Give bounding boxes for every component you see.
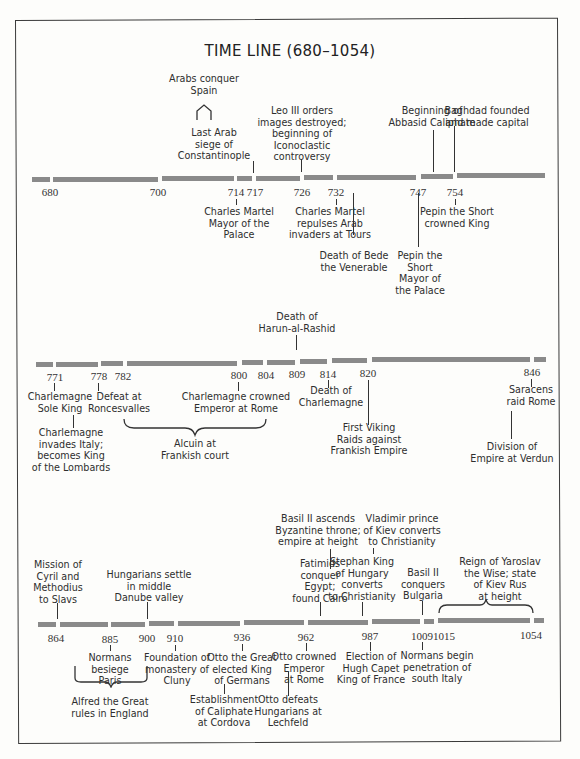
timeline-bar (242, 360, 263, 365)
event-martel-mayor: Charles Martel Mayor of the Palace (204, 206, 274, 241)
timeline-bar (534, 357, 546, 362)
timeline-bar (244, 620, 304, 625)
year-label: 809 (289, 368, 306, 380)
year-label: 936 (234, 631, 251, 643)
year-label: 1054 (520, 629, 542, 641)
year-label: 782 (115, 370, 132, 382)
event-stephan: Stephan King of Hungary converts to Chri… (328, 556, 396, 602)
timeline-bar (111, 622, 145, 627)
event-connector (362, 602, 363, 616)
timeline-bar (424, 619, 434, 624)
timeline-bar (332, 358, 367, 363)
event-death-of-harun: Death of Harun-al-Rashid (259, 311, 336, 334)
event-connector (306, 643, 307, 651)
event-connector (110, 645, 111, 651)
brace-icon (437, 597, 535, 615)
year-label: 1015 (433, 630, 455, 642)
event-connector (57, 603, 58, 619)
event-connector (288, 672, 289, 696)
year-label: 864 (48, 632, 65, 644)
timeline-bar (53, 177, 158, 182)
event-leo-iii: Leo III orders images destroyed; beginni… (257, 105, 346, 163)
year-label: 700 (150, 186, 167, 198)
year-label: 680 (42, 186, 59, 198)
event-connector (455, 199, 456, 205)
event-saracens-raid-rome: Saracens raid Rome (507, 384, 556, 407)
brace-icon (122, 417, 268, 437)
event-hugh-capet: Election of Hugh Capet King of France (337, 651, 405, 686)
event-connector (296, 335, 297, 350)
year-label: 771 (47, 371, 64, 383)
year-label: 900 (139, 632, 156, 644)
year-label: 820 (360, 367, 377, 379)
event-lechfeld: Otto defeats Hungarians at Lechfeld (254, 694, 322, 729)
timeline-bar (149, 621, 174, 626)
event-last-arab-siege: Last Arab siege of Constantinople (178, 127, 250, 162)
timeline-bar (162, 176, 234, 181)
event-vladimir: Vladimir prince of Kiev converts to Chri… (363, 513, 440, 548)
timeline-bar (438, 618, 530, 623)
event-connector (454, 126, 455, 172)
event-yaroslav: Reign of Yaroslav the Wise; state of Kie… (459, 556, 541, 602)
event-pepin-crowned: Pepin the Short crowned King (420, 206, 494, 229)
timeline-bar (178, 621, 240, 626)
timeline-bar (308, 620, 368, 625)
timeline-bar (32, 177, 50, 182)
timeline-bar (300, 359, 327, 364)
year-label: 714 (228, 186, 245, 198)
event-connector (238, 382, 239, 391)
timeline-bar (101, 361, 123, 366)
year-label: 987 (362, 630, 379, 642)
timeline-bar (534, 618, 544, 623)
timeline-bar (337, 175, 416, 180)
event-connector (368, 380, 369, 425)
year-label: 962 (298, 631, 315, 643)
event-connector (301, 159, 302, 172)
event-connector (98, 383, 99, 391)
timeline-bar (237, 176, 252, 181)
event-connector (373, 548, 374, 554)
event-connector (320, 602, 321, 616)
event-connector (242, 644, 243, 651)
timeline-bar (56, 362, 98, 367)
event-connector (422, 642, 423, 650)
arch-connector-icon (195, 103, 213, 121)
event-cluny: Foundation of monastery of Cluny (144, 652, 210, 687)
event-sole-king: Charlemagne Sole King (28, 391, 92, 414)
event-connector (370, 642, 371, 651)
event-connector (147, 602, 148, 619)
event-alfred-the-great: Alfred the Great rules in England (71, 696, 148, 719)
event-death-of-charlemagne: Death of Charlemagne (299, 385, 363, 408)
event-cyril-methodius: Mission of Cyril and Methodius to Slavs (33, 559, 83, 605)
brace-icon (73, 664, 149, 688)
timeline-bar (421, 174, 453, 179)
year-label: 800 (231, 369, 248, 381)
timeline-bar (457, 173, 545, 178)
timeline-bar (372, 619, 420, 624)
event-connector (422, 601, 423, 615)
event-caliphate-cordova: Establishment of Caliphate at Cordova (190, 694, 258, 729)
year-label: 754 (447, 186, 464, 198)
page-title: TIME LINE (680–1054) (0, 42, 580, 60)
event-martel-tours: Charles Martel repulses Arab invaders at… (289, 206, 371, 241)
event-crowned-emperor: Charlemagne crowned Emperor at Rome (182, 391, 290, 414)
timeline-bar (36, 362, 53, 367)
year-label: 726 (294, 186, 311, 198)
year-label: 910 (167, 632, 184, 644)
event-roncesvalles: Defeat at Roncesvalles (88, 391, 150, 414)
event-arabs-conquer-spain: Arabs conquer Spain (169, 73, 239, 96)
event-connector (418, 193, 419, 247)
timeline-bar (304, 175, 333, 180)
timeline-bar (38, 622, 56, 627)
event-otto-king: Otto the Great elected King of Germans (207, 652, 277, 687)
timeline-bar (127, 361, 237, 366)
year-label: 804 (258, 369, 275, 381)
event-alcuin: Alcuin at Frankish court (161, 438, 229, 461)
event-normans-italy: Normans begin penetration of south Italy (400, 650, 473, 685)
timeline-bar (267, 360, 295, 365)
event-invades-italy: Charlemagne invades Italy; becomes King … (32, 427, 110, 473)
timeline-bar (372, 357, 530, 362)
event-connector (54, 383, 55, 391)
event-connector (253, 161, 254, 173)
timeline-bar (256, 176, 300, 181)
